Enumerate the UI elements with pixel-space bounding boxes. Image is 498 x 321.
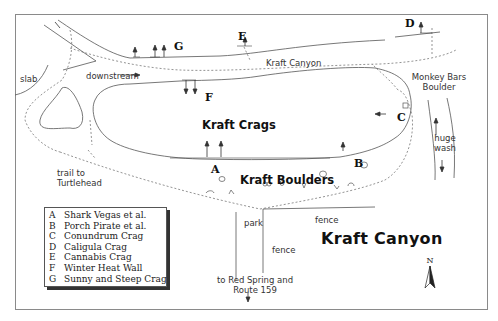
legend-row: ECannabis Crag <box>49 252 162 263</box>
legend-key: C <box>49 231 64 242</box>
legend-name: Porch Pirate et al. <box>64 221 146 232</box>
boulder <box>219 177 225 182</box>
fence-left-label: fence <box>272 245 296 255</box>
crag-letter-c: C <box>397 111 406 124</box>
canyon-north-wall-east <box>395 32 440 37</box>
legend-name: Sunny and Steep Crag <box>64 274 167 285</box>
legend-row: GSunny and Steep Crag <box>49 274 162 285</box>
crag-letter-f: F <box>205 91 213 104</box>
legend-name: Winter Heat Wall <box>64 263 142 274</box>
turtlehead-line2: Turtlehead <box>57 178 102 188</box>
kraft-crags-outline <box>93 67 411 159</box>
park-label: park <box>244 218 263 228</box>
kraft-canyon-trail-label: Kraft Canyon <box>266 58 321 68</box>
boulder <box>229 190 234 194</box>
west-formation <box>40 87 83 128</box>
legend-key: F <box>49 263 64 274</box>
slab-label: slab <box>20 74 37 84</box>
turtlehead-line1: trail to <box>57 168 102 178</box>
legend-key: A <box>49 210 64 221</box>
north-label: N <box>422 256 438 265</box>
dashed-spur <box>88 150 95 158</box>
west-trail-south <box>90 120 92 145</box>
monkey-bars-line1: Monkey Bars <box>404 72 474 82</box>
legend-row: AShark Vegas et al. <box>49 210 162 221</box>
trail-to-turtlehead-label: trail to Turtlehead <box>57 168 102 188</box>
to-red-spring-label: to Red Spring and Route 159 <box>210 275 300 295</box>
monkey-bars-boulder <box>403 103 408 108</box>
huge-wash-label: huge wash <box>430 133 460 153</box>
legend-row: BPorch Pirate et al. <box>49 221 162 232</box>
kraft-boulders-label: Kraft Boulders <box>240 173 334 187</box>
monkey-bars-boulder-label: Monkey Bars Boulder <box>404 72 474 92</box>
east-loop-trail <box>260 90 413 209</box>
huge-wash-line1: huge <box>430 133 460 143</box>
legend: AShark Vegas et al. BPorch Pirate et al.… <box>44 207 167 287</box>
legend-key: B <box>49 221 64 232</box>
legend-name: Cannabis Crag <box>64 252 132 263</box>
legend-row: FWinter Heat Wall <box>49 263 162 274</box>
north-arrow: N <box>422 256 438 292</box>
legend-key: G <box>49 274 64 285</box>
legend-key: E <box>49 252 64 263</box>
crag-letter-b: B <box>354 157 363 170</box>
fence-top-label: fence <box>315 215 339 225</box>
fence-line-top <box>263 207 375 209</box>
boulder <box>206 191 214 193</box>
map-title: Kraft Canyon <box>321 229 443 248</box>
crag-letter-d: D <box>405 17 415 30</box>
legend-name: Shark Vegas et al. <box>64 210 146 221</box>
huge-wash-line2: wash <box>430 143 460 153</box>
crag-letter-e: E <box>238 30 246 43</box>
boulder <box>334 185 339 189</box>
nw-ridge <box>44 25 96 70</box>
kraft-crags-label: Kraft Crags <box>202 118 276 132</box>
downstream-label: downstream <box>86 71 139 81</box>
west-trail <box>25 30 72 152</box>
legend-name: Conundrum Crag <box>64 231 143 242</box>
red-spring-line1: to Red Spring and <box>210 275 300 285</box>
legend-row: CConundrum Crag <box>49 231 162 242</box>
monkey-bars-line2: Boulder <box>404 82 474 92</box>
boulder <box>348 183 354 186</box>
legend-row: DCaligula Crag <box>49 242 162 253</box>
crag-letter-g: G <box>174 40 183 53</box>
legend-key: D <box>49 242 64 253</box>
red-spring-line2: Route 159 <box>210 285 300 295</box>
canyon-north-wall <box>58 20 385 58</box>
legend-name: Caligula Crag <box>64 242 127 253</box>
crag-letter-a: A <box>211 163 220 176</box>
